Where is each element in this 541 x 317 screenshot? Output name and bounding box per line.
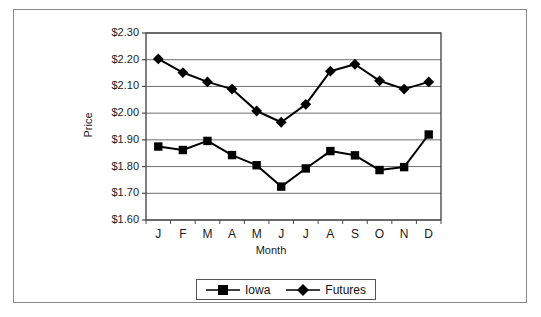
x-tick-label: F <box>171 227 195 241</box>
x-tick-label: O <box>368 227 392 241</box>
x-tick-label: M <box>245 227 269 241</box>
x-tick-label: J <box>294 227 318 241</box>
legend-label-iowa: Iowa <box>245 284 270 296</box>
x-tick-label: S <box>343 227 367 241</box>
x-axis-title: Month <box>14 244 528 256</box>
y-tick-label: $1.60 <box>89 213 139 225</box>
legend-marker-diamond-icon <box>286 284 320 296</box>
x-tick-label: A <box>220 227 244 241</box>
x-tick-label: A <box>318 227 342 241</box>
x-tick-label: M <box>195 227 219 241</box>
chart-screenshot: Price Month $1.60$1.70$1.80$1.90$2.00$2.… <box>0 0 541 317</box>
figure-frame: Price Month $1.60$1.70$1.80$1.90$2.00$2.… <box>13 9 527 303</box>
chart-legend: Iowa Futures <box>196 279 376 300</box>
chart-area: Price Month $1.60$1.70$1.80$1.90$2.00$2.… <box>14 10 528 304</box>
x-tick-label: N <box>392 227 416 241</box>
y-tick-label: $2.10 <box>89 79 139 91</box>
x-tick-label: J <box>269 227 293 241</box>
y-tick-label: $2.30 <box>89 26 139 38</box>
legend-item-futures: Futures <box>286 284 366 296</box>
y-tick-label: $1.90 <box>89 133 139 145</box>
legend-item-iowa: Iowa <box>206 284 270 296</box>
legend-marker-square-icon <box>206 284 240 296</box>
legend-label-futures: Futures <box>325 284 366 296</box>
y-tick-label: $2.00 <box>89 106 139 118</box>
y-tick-label: $1.70 <box>89 186 139 198</box>
y-tick-label: $1.80 <box>89 160 139 172</box>
y-tick-label: $2.20 <box>89 53 139 65</box>
x-tick-label: J <box>146 227 170 241</box>
x-tick-label: D <box>417 227 441 241</box>
